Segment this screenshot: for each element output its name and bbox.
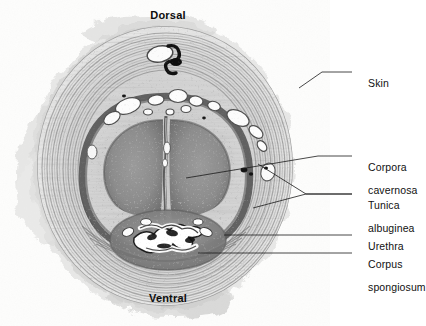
label-corpus-spongiosum-line1: Corpus	[368, 258, 402, 270]
micrograph-svg	[0, 0, 330, 326]
orientation-label-ventral: Ventral	[123, 292, 213, 304]
nuclei-speckle	[37, 26, 293, 306]
label-skin: Skin	[356, 66, 389, 101]
histology-figure: Dorsal Ventral Skin Corpora cavernosa Tu…	[0, 0, 426, 326]
specimen-micrograph: Dorsal Ventral	[0, 0, 330, 326]
label-corpus-spongiosum: Corpus spongiosum	[356, 247, 426, 305]
label-corpora-cavernosa-line1: Corpora	[368, 161, 407, 173]
label-tunica-albuginea-line1: Tunica	[368, 199, 400, 211]
orientation-label-dorsal: Dorsal	[123, 9, 213, 21]
label-skin-line1: Skin	[368, 77, 389, 89]
label-corpus-spongiosum-line2: spongiosum	[368, 281, 426, 293]
